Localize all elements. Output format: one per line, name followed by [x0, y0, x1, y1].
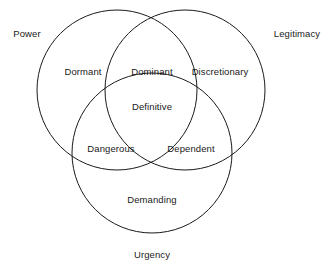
- region-label-discretionary: Discretionary: [192, 66, 249, 77]
- region-label-dormant: Dormant: [64, 66, 101, 77]
- region-label-dependent: Dependent: [167, 143, 214, 154]
- venn-circles-graphic: [0, 0, 333, 271]
- label-legitimacy: Legitimacy: [274, 28, 320, 39]
- region-label-definitive: Definitive: [132, 101, 172, 112]
- region-label-dangerous: Dangerous: [87, 143, 134, 154]
- region-label-demanding: Demanding: [127, 194, 177, 205]
- label-power: Power: [13, 28, 40, 39]
- venn-diagram: Power Legitimacy Urgency Dormant Dominan…: [0, 0, 333, 271]
- region-label-dominant: Dominant: [131, 66, 172, 77]
- label-urgency: Urgency: [134, 249, 170, 260]
